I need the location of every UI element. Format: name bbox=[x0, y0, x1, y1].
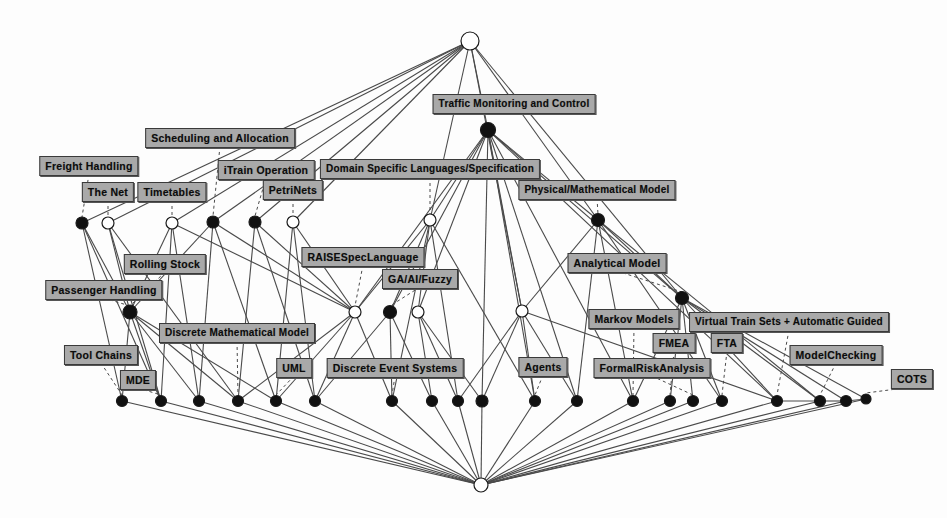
lattice-node[interactable] bbox=[453, 396, 464, 407]
label-stem bbox=[237, 341, 238, 395]
lattice-node[interactable] bbox=[412, 306, 424, 318]
lattice-node[interactable] bbox=[310, 396, 321, 407]
lattice-node[interactable] bbox=[474, 478, 488, 492]
lattice-edge bbox=[276, 401, 481, 485]
concept-label-markov[interactable]: Markov Models bbox=[588, 309, 679, 329]
lattice-edge bbox=[172, 223, 199, 401]
lattice-node[interactable] bbox=[628, 396, 639, 407]
lattice-node[interactable] bbox=[207, 216, 219, 228]
label-stem bbox=[101, 363, 122, 395]
lattice-node[interactable] bbox=[387, 396, 398, 407]
concept-label-uml[interactable]: UML bbox=[276, 358, 312, 378]
lattice-node[interactable] bbox=[572, 396, 583, 407]
lattice-edge bbox=[161, 223, 172, 401]
lattice-edge bbox=[418, 312, 458, 401]
lattice-node[interactable] bbox=[717, 396, 728, 407]
label-stem bbox=[597, 198, 598, 214]
lattice-node[interactable] bbox=[166, 217, 178, 229]
lattice-edge bbox=[161, 401, 481, 485]
concept-label-raise[interactable]: RAISESpecLanguage bbox=[301, 247, 424, 267]
concept-label-des[interactable]: Discrete Event Systems bbox=[327, 358, 464, 378]
lattice-node[interactable] bbox=[592, 214, 605, 227]
lattice-node[interactable] bbox=[233, 396, 244, 407]
lattice-node[interactable] bbox=[287, 216, 299, 228]
label-stem bbox=[213, 146, 220, 216]
lattice-diagram-canvas: Traffic Monitoring and ControlScheduling… bbox=[0, 0, 947, 518]
lattice-node[interactable] bbox=[384, 306, 397, 319]
lattice-node[interactable] bbox=[665, 396, 676, 407]
lattice-node[interactable] bbox=[461, 32, 479, 50]
concept-label-modelcheck[interactable]: ModelChecking bbox=[790, 345, 883, 365]
lattice-node[interactable] bbox=[349, 306, 361, 318]
lattice-edge bbox=[482, 311, 522, 401]
lattice-node[interactable] bbox=[194, 396, 205, 407]
lattice-edge bbox=[481, 401, 670, 485]
lattice-edge bbox=[392, 401, 481, 485]
concept-label-fta[interactable]: FTA bbox=[711, 333, 743, 353]
concept-label-cots[interactable]: COTS bbox=[891, 369, 933, 389]
concept-label-mde[interactable]: MDE bbox=[120, 370, 156, 390]
concept-label-analytical[interactable]: Analytical Model bbox=[568, 253, 667, 273]
concept-label-sched[interactable]: Scheduling and Allocation bbox=[145, 128, 295, 148]
lattice-node[interactable] bbox=[427, 396, 438, 407]
lattice-edge bbox=[481, 401, 633, 485]
concept-label-thenet[interactable]: The Net bbox=[82, 182, 134, 202]
concept-label-fmea[interactable]: FMEA bbox=[653, 333, 696, 353]
label-stem bbox=[722, 351, 727, 395]
lattice-edge bbox=[481, 401, 482, 485]
lattice-edge bbox=[390, 312, 432, 401]
lattice-node[interactable] bbox=[516, 305, 528, 317]
lattice-edge bbox=[522, 311, 535, 401]
lattice-edge bbox=[315, 312, 355, 401]
lattice-node[interactable] bbox=[424, 214, 436, 226]
label-stem bbox=[535, 375, 543, 395]
lattice-edge bbox=[238, 401, 481, 485]
concept-label-dsl[interactable]: Domain Specific Languages/Specification bbox=[320, 159, 540, 179]
lattice-edge bbox=[213, 222, 276, 401]
lattice-edge bbox=[481, 401, 577, 485]
lattice-node[interactable] bbox=[102, 217, 114, 229]
lattice-node[interactable] bbox=[481, 123, 496, 138]
lattice-node[interactable] bbox=[271, 396, 282, 407]
lattice-edge bbox=[315, 312, 390, 401]
lattice-edge bbox=[122, 401, 481, 485]
lattice-edge bbox=[213, 222, 355, 312]
concept-label-passenger[interactable]: Passenger Handling bbox=[45, 280, 162, 300]
concept-label-virtual[interactable]: Virtual Train Sets + Automatic Guided bbox=[689, 312, 889, 332]
label-stem bbox=[276, 376, 294, 395]
concept-label-physmath[interactable]: Physical/Mathematical Model bbox=[518, 180, 675, 200]
concept-label-rolling[interactable]: Rolling Stock bbox=[124, 254, 206, 274]
lattice-node[interactable] bbox=[76, 217, 88, 229]
concept-label-freight[interactable]: Freight Handling bbox=[39, 156, 138, 176]
lattice-edge bbox=[418, 312, 432, 401]
lattice-edge bbox=[481, 401, 722, 485]
lattice-edge bbox=[481, 401, 820, 485]
lattice-node[interactable] bbox=[815, 396, 826, 407]
lattice-edge bbox=[481, 399, 866, 485]
lattice-node[interactable] bbox=[530, 396, 541, 407]
concept-label-agents[interactable]: Agents bbox=[518, 357, 567, 377]
concept-label-gaai[interactable]: GA/AI/Fuzzy bbox=[382, 269, 458, 289]
lattice-node[interactable] bbox=[676, 292, 689, 305]
concept-label-dmm[interactable]: Discrete Mathematical Model bbox=[159, 323, 315, 343]
lattice-edge bbox=[355, 312, 392, 401]
lattice-node[interactable] bbox=[861, 394, 871, 404]
lattice-node[interactable] bbox=[688, 396, 699, 407]
lattice-node[interactable] bbox=[156, 396, 167, 407]
lattice-node[interactable] bbox=[476, 395, 488, 407]
concept-label-traffic[interactable]: Traffic Monitoring and Control bbox=[433, 94, 596, 114]
lattice-node[interactable] bbox=[123, 305, 137, 319]
lattice-edge bbox=[458, 401, 481, 485]
lattice-node[interactable] bbox=[249, 216, 261, 228]
concept-label-formalrisk[interactable]: FormalRiskAnalysis bbox=[594, 358, 711, 378]
lattice-node[interactable] bbox=[117, 396, 128, 407]
concept-label-trainop[interactable]: iTrain Operation bbox=[218, 160, 315, 180]
concept-label-toolchains[interactable]: Tool Chains bbox=[64, 345, 138, 365]
lattice-node[interactable] bbox=[841, 396, 852, 407]
concept-label-petrinets[interactable]: PetriNets bbox=[263, 180, 323, 200]
label-stem bbox=[355, 265, 363, 306]
lattice-node[interactable] bbox=[772, 396, 783, 407]
lattice-edge bbox=[481, 401, 777, 485]
lattice-edge bbox=[522, 311, 577, 401]
concept-label-timetables[interactable]: Timetables bbox=[137, 182, 206, 202]
